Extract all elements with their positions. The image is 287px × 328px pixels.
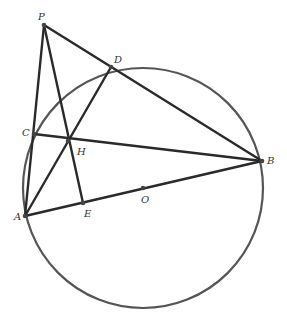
segment-cb bbox=[34, 134, 262, 161]
label-h: H bbox=[76, 146, 86, 157]
point-c bbox=[32, 132, 37, 137]
point-labels: PDCHAEOB bbox=[13, 11, 274, 222]
geometry-diagram: PDCHAEOB bbox=[0, 0, 287, 328]
label-o: O bbox=[141, 194, 149, 205]
point-b bbox=[260, 159, 265, 164]
label-p: P bbox=[37, 11, 45, 22]
label-c: C bbox=[22, 127, 30, 138]
point-p bbox=[42, 23, 47, 28]
point-a bbox=[23, 214, 28, 219]
segment-pb bbox=[44, 25, 262, 161]
label-a: A bbox=[13, 211, 21, 222]
point-e bbox=[81, 201, 86, 206]
label-b: B bbox=[266, 155, 274, 166]
point-o bbox=[141, 186, 146, 191]
label-e: E bbox=[83, 208, 92, 219]
label-d: D bbox=[113, 54, 122, 65]
point-h bbox=[66, 139, 71, 144]
points bbox=[23, 23, 265, 219]
point-d bbox=[109, 65, 114, 70]
